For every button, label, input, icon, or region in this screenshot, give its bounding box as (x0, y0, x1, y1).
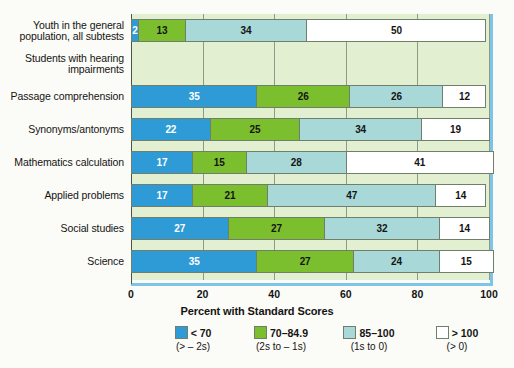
legend-item[interactable]: < 70(> – 2s) (150, 326, 236, 352)
legend-sublabel: (2s to – 1s) (256, 341, 306, 352)
row-label-line: population, all subtests (0, 31, 124, 43)
bar-value-label: 17 (156, 190, 167, 201)
row-label: Youth in the generalpopulation, all subt… (0, 19, 124, 42)
stacked-bar[interactable]: 2133450 (131, 19, 486, 42)
legend-label: > 100 (452, 327, 479, 339)
legend-item[interactable]: > 100(> 0) (414, 326, 500, 352)
bar-segment[interactable]: 17 (131, 184, 193, 207)
bar-segment[interactable]: 14 (439, 217, 490, 240)
row-label-line: Social studies (0, 223, 124, 235)
row-label-line: Students with hearing (0, 52, 124, 64)
row-label: Passage comprehension (0, 91, 124, 103)
bar-segment[interactable]: 21 (192, 184, 268, 207)
legend-swatch-icon (175, 326, 188, 339)
stacked-bar[interactable]: 27273214 (131, 217, 490, 240)
bar-value-label: 27 (174, 223, 185, 234)
bar-value-label: 35 (189, 91, 200, 102)
row-label: Students with hearingimpairments (0, 52, 124, 75)
row-label-line: Science (0, 256, 124, 268)
stacked-bar[interactable]: 35262612 (131, 85, 486, 108)
bar-value-label: 50 (391, 25, 402, 36)
row-label-line: Youth in the general (0, 19, 124, 31)
bar-segment[interactable]: 26 (256, 85, 350, 108)
bar-value-label: 27 (300, 256, 311, 267)
bar-segment[interactable]: 22 (131, 118, 211, 141)
row-label: Social studies (0, 223, 124, 235)
bar-value-label: 27 (271, 223, 282, 234)
bar-value-label: 13 (156, 25, 167, 36)
stacked-bar[interactable]: 22253419 (131, 118, 490, 141)
chart-row: Mathematics calculation17152841 (0, 146, 514, 179)
bar-segment[interactable]: 15 (192, 151, 247, 174)
bar-segment[interactable]: 25 (210, 118, 301, 141)
bar-segment[interactable]: 15 (439, 250, 494, 273)
bar-segment[interactable]: 26 (349, 85, 443, 108)
bar-segment[interactable]: 17 (131, 151, 193, 174)
legend-sublabel: (1s to 0) (351, 341, 388, 352)
bar-value-label: 22 (165, 124, 176, 135)
row-label-line: impairments (0, 64, 124, 76)
x-tick-label: 0 (128, 288, 134, 300)
bar-segment[interactable]: 34 (185, 19, 308, 42)
legend-swatch-icon (436, 326, 449, 339)
legend-label: < 70 (191, 327, 212, 339)
bar-segment[interactable]: 19 (421, 118, 490, 141)
chart-row: Students with hearingimpairments (0, 47, 514, 80)
bar-value-label: 15 (461, 256, 472, 267)
legend-item[interactable]: 70–84.9(2s to – 1s) (238, 326, 324, 352)
chart-row: Synonyms/antonyms22253419 (0, 113, 514, 146)
chart-row: Youth in the generalpopulation, all subt… (0, 14, 514, 47)
chart-legend: < 70(> – 2s)70–84.9(2s to – 1s)85–100(1s… (150, 326, 500, 352)
legend-swatch-icon (254, 326, 267, 339)
bar-segment[interactable]: 13 (138, 19, 186, 42)
x-tick-label: 60 (340, 288, 352, 300)
bar-segment[interactable]: 41 (346, 151, 494, 174)
bar-segment[interactable]: 27 (228, 217, 326, 240)
chart-figure: Youth in the generalpopulation, all subt… (0, 0, 514, 368)
legend-top-row: > 100 (436, 326, 479, 339)
bar-value-label: 25 (250, 124, 261, 135)
bar-segment[interactable]: 24 (353, 250, 440, 273)
bar-segment[interactable]: 35 (131, 85, 257, 108)
row-label-line: Mathematics calculation (0, 157, 124, 169)
bar-segment[interactable]: 27 (131, 217, 229, 240)
bar-segment[interactable]: 34 (299, 118, 422, 141)
chart-row: Science35272415 (0, 245, 514, 278)
legend-top-row: 85–100 (343, 326, 394, 339)
stacked-bar[interactable]: 35272415 (131, 250, 494, 273)
legend-sublabel: (> 0) (447, 341, 468, 352)
bar-segment[interactable]: 47 (267, 184, 436, 207)
stacked-bar[interactable]: 17152841 (131, 151, 494, 174)
bar-segment[interactable]: 14 (435, 184, 486, 207)
bar-segment[interactable]: 32 (324, 217, 440, 240)
row-label-line: Synonyms/antonyms (0, 124, 124, 136)
bar-segment[interactable]: 27 (256, 250, 354, 273)
bar-value-label: 26 (391, 91, 402, 102)
bar-value-label: 24 (391, 256, 402, 267)
legend-top-row: 70–84.9 (254, 326, 308, 339)
legend-swatch-icon (343, 326, 356, 339)
bar-segment[interactable]: 12 (442, 85, 486, 108)
x-tick-label: 80 (412, 288, 424, 300)
stacked-bar[interactable]: 17214714 (131, 184, 486, 207)
legend-label: 70–84.9 (270, 327, 308, 339)
bar-value-label: 34 (355, 124, 366, 135)
legend-sublabel: (> – 2s) (176, 341, 210, 352)
row-label: Mathematics calculation (0, 157, 124, 169)
bar-value-label: 2 (132, 25, 137, 36)
bar-value-label: 34 (241, 25, 252, 36)
bar-value-label: 12 (459, 91, 470, 102)
bar-value-label: 21 (224, 190, 235, 201)
x-tick-label: 20 (197, 288, 209, 300)
bar-segment[interactable]: 35 (131, 250, 257, 273)
x-axis-label: Percent with Standard Scores (0, 305, 514, 317)
bar-segment[interactable]: 28 (246, 151, 347, 174)
bar-value-label: 35 (189, 256, 200, 267)
bar-value-label: 15 (214, 157, 225, 168)
legend-item[interactable]: 85–100(1s to 0) (326, 326, 412, 352)
bar-value-label: 14 (459, 223, 470, 234)
x-tick-label: 40 (268, 288, 280, 300)
x-tick-label: 100 (480, 288, 498, 300)
bar-value-label: 28 (291, 157, 302, 168)
bar-segment[interactable]: 50 (306, 19, 486, 42)
